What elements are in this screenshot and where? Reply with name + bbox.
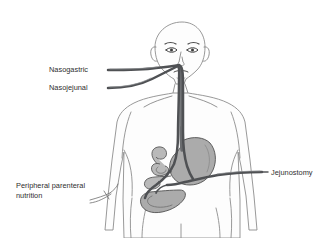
enteral-parenteral-nutrition-diagram: Nasogastric Nasojejunal Peripheral paren…	[0, 0, 327, 238]
label-peripheral-parenteral-nutrition-line2: nutrition	[16, 191, 42, 200]
label-jejunostomy: Jejunostomy	[271, 168, 313, 177]
label-nasogastric: Nasogastric	[49, 65, 88, 74]
pupil-right	[191, 49, 194, 52]
label-nasojejunal: Nasojejunal	[49, 83, 88, 92]
label-peripheral-parenteral-nutrition-line1: Peripheral parenteral	[16, 181, 85, 190]
neck-outline-right	[185, 84, 188, 93]
pupil-left	[170, 49, 173, 52]
neck-outline	[173, 84, 175, 93]
